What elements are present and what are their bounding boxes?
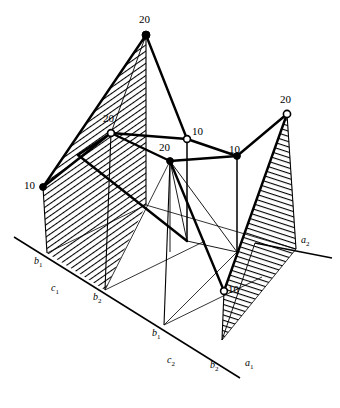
axis-tick-b2-right-front: b2 xyxy=(210,360,219,373)
axis-tick-b1-right-front: b1 xyxy=(152,328,161,341)
value-label-left-low: 10 xyxy=(24,180,35,191)
value-label-right-mid: 10 xyxy=(229,144,240,155)
plot-svg xyxy=(0,0,340,408)
value-label-left-mid: 20 xyxy=(103,113,114,124)
marker-top-peak xyxy=(142,31,150,39)
marker-center-low xyxy=(167,158,174,165)
figure-canvas: 20 20 10 20 10 20 10 10 b1 c1 b2 b1 c2 b… xyxy=(0,0,340,408)
marker-center-high xyxy=(184,136,191,143)
marker-right-peak xyxy=(283,110,290,117)
value-label-right-peak: 20 xyxy=(280,94,291,105)
axis-tick-b2-left-front: b2 xyxy=(93,292,102,305)
marker-left-low xyxy=(40,184,47,191)
marker-left-mid xyxy=(108,130,115,137)
value-label-top-peak: 20 xyxy=(139,14,150,25)
axis-label-a2: a2 xyxy=(301,235,310,248)
axis-label-a1: a1 xyxy=(245,358,254,371)
marker-bottom-dip xyxy=(221,288,228,295)
axis-tick-b1-left-front: b1 xyxy=(34,256,43,269)
value-label-bottom-dip: 10 xyxy=(228,284,239,295)
axis-tick-c2-group: c2 xyxy=(167,355,175,368)
value-label-center-high: 10 xyxy=(192,126,203,137)
axis-tick-c1-group: c1 xyxy=(51,283,59,296)
value-label-center-low: 20 xyxy=(159,142,170,153)
